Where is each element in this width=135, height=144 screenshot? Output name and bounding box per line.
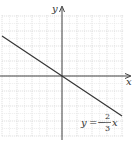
y-axis-label: y (51, 3, 58, 14)
fraction-numerator: 2 (105, 112, 110, 121)
equation-label: y = − 2 3 x (80, 112, 118, 133)
equation-lhs: y (80, 117, 87, 128)
equation-variable: x (112, 117, 118, 128)
coordinate-graph: y x y = − 2 3 x (0, 0, 135, 144)
x-axis-label: x (126, 76, 132, 87)
fraction-denominator: 3 (105, 124, 110, 133)
x-axis: x (0, 74, 132, 88)
